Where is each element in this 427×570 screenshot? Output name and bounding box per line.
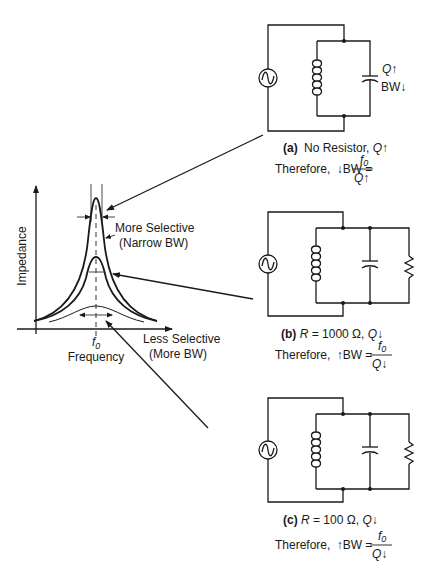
selective-pointer-arrow bbox=[106, 235, 115, 238]
caption-b-line2: Therefore, ↑BW = bbox=[275, 348, 372, 362]
more-selective-label: More Selective bbox=[115, 221, 195, 235]
capacitor-icon bbox=[362, 261, 378, 268]
impedance-graph: Impedance f0 Frequency More Selective (N… bbox=[15, 184, 221, 364]
x-axis-label: Frequency bbox=[68, 350, 125, 364]
resistor-icon bbox=[405, 256, 413, 278]
inductor-icon bbox=[312, 432, 321, 470]
inductor-icon bbox=[312, 246, 321, 284]
fraction-b-numerator: f0 bbox=[378, 339, 386, 354]
caption-a-line1: (a) No Resistor, Q↑ bbox=[283, 141, 388, 155]
side-label-q: Q↑ bbox=[382, 62, 397, 76]
less-selective-label: Less Selective bbox=[143, 332, 221, 346]
f0-label: f0 bbox=[92, 335, 100, 351]
y-axis-label: Impedance bbox=[15, 226, 29, 286]
fraction-c-denominator: Q↓ bbox=[372, 547, 387, 561]
resistor-icon bbox=[405, 442, 413, 464]
fraction-a-denominator: Q↑ bbox=[354, 171, 369, 185]
fraction-b-denominator: Q↓ bbox=[372, 357, 387, 371]
circuit-b: (b) R = 1000 Ω, Q↓ Therefore, ↑BW = f0 Q… bbox=[259, 212, 413, 371]
fraction-c-numerator: f0 bbox=[378, 529, 386, 544]
ac-source-icon bbox=[259, 69, 277, 87]
circuit-c: (c) R = 100 Ω, Q↓ Therefore, ↑BW = f0 Q↓ bbox=[259, 398, 413, 561]
narrow-bw-label: (Narrow BW) bbox=[119, 236, 188, 250]
capacitor-icon bbox=[362, 447, 378, 454]
side-label-bw: BW↓ bbox=[381, 80, 406, 94]
arrow-circuit-b-to-graph bbox=[113, 274, 253, 299]
caption-b-line1: (b) R = 1000 Ω, Q↓ bbox=[281, 327, 383, 341]
ac-source-icon bbox=[259, 441, 277, 459]
inductor-icon bbox=[313, 60, 322, 98]
resonance-diagram: Impedance f0 Frequency More Selective (N… bbox=[0, 0, 427, 570]
circuit-a: Q↑ BW↓ (a) No Resistor, Q↑ Therefore, ↓B… bbox=[259, 25, 406, 185]
arrow-circuit-a-to-graph bbox=[107, 135, 263, 210]
caption-c-line1: (c) R = 100 Ω, Q↓ bbox=[283, 513, 378, 527]
caption-c-line2: Therefore, ↑BW = bbox=[275, 538, 372, 552]
more-bw-label: (More BW) bbox=[149, 347, 207, 361]
fraction-a-numerator: f0 bbox=[360, 153, 368, 168]
ac-source-icon bbox=[259, 255, 277, 273]
